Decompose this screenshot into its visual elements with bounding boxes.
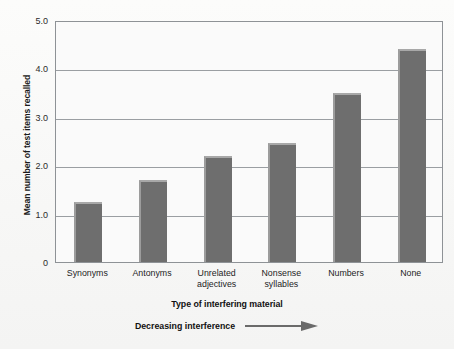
y-tick-label: 5.0	[35, 16, 48, 26]
x-tick-label: Synonyms	[55, 268, 120, 279]
x-axis-tick-labels: SynonymsAntonymsUnrelatedadjectivesNonse…	[55, 268, 443, 302]
bar[interactable]	[398, 49, 426, 262]
bar[interactable]	[268, 143, 296, 262]
bar[interactable]	[139, 180, 167, 262]
bar-series	[56, 22, 442, 262]
y-tick-label: 1.0	[35, 210, 48, 220]
trend-annotation: Decreasing interference	[0, 320, 454, 332]
bar[interactable]	[204, 156, 232, 262]
y-axis-tick-labels: 01.02.03.04.05.0	[0, 0, 52, 349]
x-tick-label: Numbers	[314, 268, 379, 279]
bar-slot	[121, 22, 186, 262]
y-tick-label: 2.0	[35, 161, 48, 171]
x-tick-label: Nonsensesyllables	[249, 268, 314, 290]
bar-slot	[185, 22, 250, 262]
trend-annotation-label: Decreasing interference	[135, 321, 235, 331]
x-axis-title: Type of interfering material	[0, 299, 454, 309]
y-tick-label: 0	[43, 258, 48, 268]
plot-area	[55, 21, 443, 263]
x-tick-label: Antonyms	[120, 268, 185, 279]
bar-slot	[379, 22, 444, 262]
right-arrow-icon	[245, 320, 319, 332]
y-tick-label: 3.0	[35, 113, 48, 123]
x-tick-label: Unrelatedadjectives	[184, 268, 249, 290]
bar[interactable]	[333, 93, 361, 262]
y-tick-label: 4.0	[35, 64, 48, 74]
bar-slot	[56, 22, 121, 262]
bar[interactable]	[74, 202, 102, 263]
chart-figure: Mean number of test items recalled 01.02…	[0, 0, 454, 349]
bar-slot	[250, 22, 315, 262]
bar-slot	[315, 22, 380, 262]
x-tick-label: None	[378, 268, 443, 279]
